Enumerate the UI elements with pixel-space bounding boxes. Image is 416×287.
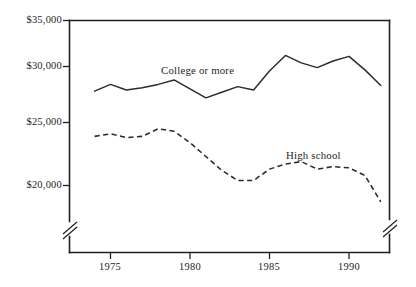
annotation-college-or-more: College or more [161,64,234,76]
y-tick-label-35000: $35,000 [26,14,62,25]
y-tick-label-25000: $25,000 [26,116,62,127]
series-line-college [95,55,381,97]
annotation-high-school: High school [286,149,341,161]
x-axis-ticks [111,253,350,260]
chart-container: $35,000 $30,000 $25,000 $20,000 1975 198… [0,0,416,287]
x-tick-label-1990: 1990 [338,261,360,272]
y-axis-ticks [63,21,70,186]
y-tick-label-20000: $20,000 [26,179,62,190]
series-line-highschool [95,129,381,202]
x-tick-label-1985: 1985 [258,261,280,272]
y-tick-label-30000: $30,000 [26,60,62,71]
x-tick-label-1975: 1975 [99,261,121,272]
chart-plot-area [0,0,416,287]
x-tick-label-1980: 1980 [179,261,201,272]
